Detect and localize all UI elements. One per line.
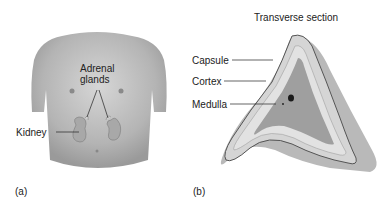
- label-capsule: Capsule: [192, 55, 229, 66]
- label-adrenal-glands-line2: glands: [80, 74, 109, 85]
- panel-label-a: (a): [15, 186, 27, 197]
- adrenal-cross-section: [221, 35, 377, 172]
- label-medulla: Medulla: [192, 99, 227, 110]
- panel-label-b: (b): [193, 186, 205, 197]
- torso-illustration: [30, 32, 170, 180]
- section-title: Transverse section: [254, 12, 338, 23]
- label-cortex: Cortex: [192, 76, 221, 87]
- label-kidney: Kidney: [16, 127, 47, 138]
- label-adrenal-glands-line1: Adrenal: [80, 63, 114, 74]
